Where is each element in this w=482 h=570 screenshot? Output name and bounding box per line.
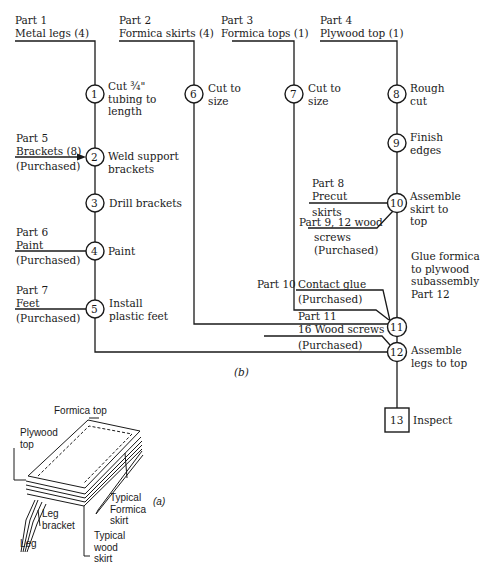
op-desc-9-line2: edges <box>410 144 443 157</box>
part-6-number: Part 6 <box>16 226 48 239</box>
part-10-name: Contact glue <box>298 278 366 291</box>
part-2-name: Formica skirts (4) <box>119 27 214 40</box>
label-formica-skirt-line2: Formica <box>110 504 146 516</box>
part-7-label: Part 7 Feet <box>16 284 48 309</box>
op-desc-2: Weld support brackets <box>108 150 179 175</box>
label-wood-skirt: Typical wood skirt <box>94 530 125 565</box>
op-desc-5: Install plastic feet <box>109 297 168 322</box>
op-number-1: 1 <box>91 88 98 101</box>
label-plywood-top: Plywood top <box>20 427 58 450</box>
part-3-number: Part 3 <box>221 14 309 27</box>
part-5-number: Part 5 <box>16 132 81 145</box>
op-desc-11: Glue formica to plywood subassembly Part… <box>411 250 480 300</box>
inspection-number: 13 <box>390 414 403 427</box>
op-desc-7: Cut to size <box>308 82 341 107</box>
op-desc-8-line1: Rough <box>410 82 444 95</box>
op-desc-8: Rough cut <box>410 82 444 107</box>
part-11-purchased: (Purchased) <box>298 339 362 352</box>
op-desc-10-line3: top <box>410 215 461 228</box>
part-4-name: Plywood top (1) <box>320 27 404 40</box>
op-desc-12-line1: Assemble <box>411 344 467 357</box>
part-8-number: Part 8 <box>312 177 347 190</box>
op-desc-5-line1: Install <box>109 297 168 310</box>
op-desc-9-line1: Finish <box>410 131 443 144</box>
part-3-name: Formica tops (1) <box>221 27 309 40</box>
label-plywood-top-line1: Plywood <box>20 427 58 439</box>
op-number-7: 7 <box>290 88 297 101</box>
op-number-12: 12 <box>390 346 403 359</box>
part-9-label: Part 9, 12 wood <box>299 216 383 229</box>
op-number-11: 11 <box>390 321 403 334</box>
part-9-name: screws <box>314 231 378 244</box>
op-desc-2-line1: Weld support <box>108 150 179 163</box>
label-leg: Leg <box>20 538 37 550</box>
part-9-detail: screws (Purchased) <box>314 231 378 256</box>
part-9-purchased: (Purchased) <box>314 244 378 257</box>
part-2-number: Part 2 <box>119 14 214 27</box>
label-formica-skirt-line3: skirt <box>110 515 146 527</box>
caption-b: (b) <box>234 366 249 379</box>
part-11-name: 16 Wood screws <box>298 323 384 336</box>
label-leg-bracket-line2: bracket <box>42 520 75 532</box>
part-5-purchased: (Purchased) <box>16 160 80 173</box>
op-number-6: 6 <box>190 88 197 101</box>
op-desc-11-line2: to plywood <box>411 263 480 276</box>
op-desc-6-line1: Cut to <box>208 82 241 95</box>
label-wood-skirt-line2: wood <box>94 542 125 554</box>
label-leg-bracket-line1: Leg <box>42 508 75 520</box>
part-8-name: Precut <box>312 190 347 203</box>
op-number-10: 10 <box>390 197 403 210</box>
op-desc-4: Paint <box>108 245 135 258</box>
part-7-purchased: (Purchased) <box>16 312 80 325</box>
part-4-number: Part 4 <box>320 14 404 27</box>
op-desc-6: Cut to size <box>208 82 241 107</box>
op-number-8: 8 <box>393 88 400 101</box>
inspection-label: Inspect <box>413 414 452 427</box>
op-desc-10-line1: Assemble <box>410 190 461 203</box>
op-desc-1-line2: tubing to <box>108 93 156 106</box>
label-leg-bracket: Leg bracket <box>42 508 75 531</box>
op-desc-12: Assemble legs to top <box>411 344 467 369</box>
op-desc-7-line1: Cut to <box>308 82 341 95</box>
op-number-9: 9 <box>393 137 400 150</box>
part-7-name: Feet <box>16 297 48 310</box>
part-6-purchased: (Purchased) <box>16 254 80 267</box>
op-desc-11-line4: Part 12 <box>411 288 480 301</box>
op-number-3: 3 <box>91 197 98 210</box>
part-1-name: Metal legs (4) <box>15 27 89 40</box>
part-6-label: Part 6 Paint <box>16 226 48 251</box>
op-desc-10-line2: skirt to <box>410 203 461 216</box>
part-1-label: Part 1 Metal legs (4) <box>15 14 89 39</box>
op-desc-11-line3: subassembly <box>411 275 480 288</box>
part-4-label: Part 4 Plywood top (1) <box>320 14 404 39</box>
part-5-name: Brackets (8) <box>16 145 81 158</box>
op-desc-12-line2: legs to top <box>411 357 467 370</box>
op-number-2: 2 <box>91 151 98 164</box>
label-wood-skirt-line3: skirt <box>94 553 125 565</box>
op-desc-1: Cut ¾" tubing to length <box>108 80 156 118</box>
part-2-label: Part 2 Formica skirts (4) <box>119 14 214 39</box>
op-desc-10: Assemble skirt to top <box>410 190 461 228</box>
op-desc-2-line2: brackets <box>108 163 179 176</box>
op-number-4: 4 <box>91 245 98 258</box>
op-number-5: 5 <box>91 303 98 316</box>
part-11-label: Part 11 16 Wood screws <box>298 310 384 335</box>
part-11-number: Part 11 <box>298 310 384 323</box>
label-formica-skirt: Typical Formica skirt <box>110 492 146 527</box>
part-3-label: Part 3 Formica tops (1) <box>221 14 309 39</box>
part-10-purchased: (Purchased) <box>298 293 362 306</box>
op-desc-5-line2: plastic feet <box>109 310 168 323</box>
part-8-label: Part 8 Precut <box>312 177 347 202</box>
op-desc-1-line3: length <box>108 105 156 118</box>
op-desc-11-line1: Glue formica <box>411 250 480 263</box>
label-plywood-top-line2: top <box>20 439 58 451</box>
label-wood-skirt-line1: Typical <box>94 530 125 542</box>
op-desc-7-line2: size <box>308 95 341 108</box>
label-formica-skirt-line1: Typical <box>110 492 146 504</box>
op-desc-6-line2: size <box>208 95 241 108</box>
op-desc-1-line1: Cut ¾" <box>108 80 156 93</box>
part-1-number: Part 1 <box>15 14 89 27</box>
op-desc-3: Drill brackets <box>109 197 182 210</box>
part-5-label: Part 5 Brackets (8) <box>16 132 81 157</box>
part-10-number: Part 10 <box>257 278 296 291</box>
